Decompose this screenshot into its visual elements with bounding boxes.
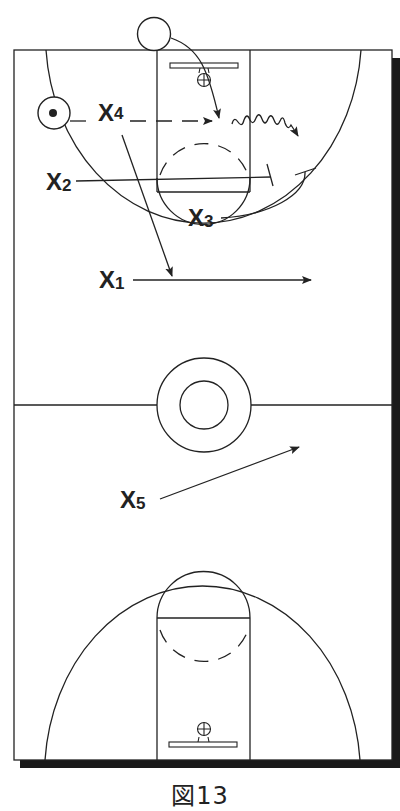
figure-caption: 図13 xyxy=(0,776,400,811)
defender-x4-label: X4 xyxy=(98,99,124,126)
court-shadow-bottom xyxy=(20,760,400,768)
inbounder-offense-icon xyxy=(138,18,171,51)
ball-dot-icon xyxy=(49,109,57,117)
court-shadow-right xyxy=(392,58,400,768)
bottom-backboard xyxy=(169,742,237,747)
